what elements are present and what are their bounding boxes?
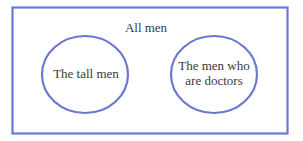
set-doctors-label-line2: are doctors	[172, 73, 256, 88]
universe-label: All men	[105, 20, 187, 35]
venn-diagram: All men The tall men The men who are doc…	[0, 0, 303, 141]
set-doctors-label-line1: The men who	[172, 58, 256, 73]
set-doctors-label: The men who are doctors	[172, 58, 256, 88]
set-tall-men-label: The tall men	[45, 66, 127, 81]
